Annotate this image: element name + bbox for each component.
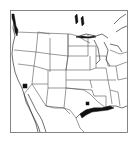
distribution-map	[10, 10, 128, 133]
distribution-southern-california	[23, 84, 27, 88]
map-svg	[10, 10, 128, 133]
distribution-central-texas	[86, 102, 89, 105]
map-frame-border	[11, 11, 128, 133]
